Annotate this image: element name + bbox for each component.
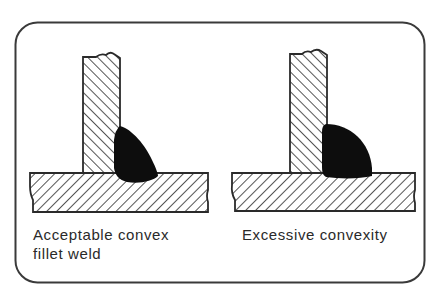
base-plate	[30, 173, 208, 212]
weld-bead	[114, 126, 158, 183]
caption-acceptable-line1: Acceptable convex	[33, 226, 169, 243]
web-member	[290, 50, 327, 173]
weld-convexity-diagram: Acceptable convex fillet weld Excessive …	[0, 0, 438, 291]
caption-excessive: Excessive convexity	[242, 226, 388, 243]
panel-excessive-convexity: Excessive convexity	[232, 50, 415, 243]
panel-acceptable-convex: Acceptable convex fillet weld	[30, 53, 208, 262]
caption-acceptable-line2: fillet weld	[33, 245, 101, 262]
weld-bead	[322, 124, 372, 178]
base-plate	[232, 173, 415, 211]
